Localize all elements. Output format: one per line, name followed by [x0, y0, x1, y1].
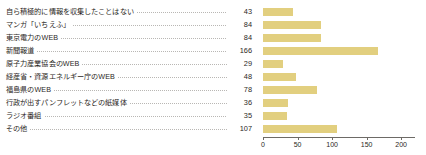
bar-cell	[263, 5, 426, 18]
table-row: 新聞報道 166	[0, 44, 426, 57]
chart-rows: 自ら積極的に情報を収集したことはない 43 マンガ「いちえふ」 84 東京電力の…	[0, 5, 426, 135]
x-axis-tick-label: 150	[361, 141, 373, 149]
leader-line	[118, 77, 227, 78]
leader-line	[37, 51, 227, 52]
bar	[263, 99, 288, 107]
category-label: 経産省・資源エネルギー庁のWEB	[0, 72, 115, 81]
leader-line	[137, 12, 227, 13]
value-label: 29	[230, 59, 252, 68]
leader-line	[61, 38, 227, 39]
bar-cell	[263, 18, 426, 31]
table-row: その他 107	[0, 122, 426, 135]
table-row: 原子力産業協会のWEB 29	[0, 57, 426, 70]
value-label: 107	[230, 124, 252, 133]
bar	[263, 8, 293, 16]
bar-cell	[263, 96, 426, 109]
bar-cell	[263, 70, 426, 83]
value-label: 84	[230, 20, 252, 29]
x-axis-tick-label: 100	[326, 141, 338, 149]
value-label: 78	[230, 85, 252, 94]
category-label: ラジオ番組	[0, 111, 42, 120]
x-axis-tick-label: 200	[395, 141, 407, 149]
leader-line	[130, 103, 227, 104]
horizontal-bar-chart: 自ら積極的に情報を収集したことはない 43 マンガ「いちえふ」 84 東京電力の…	[0, 0, 426, 155]
bar	[263, 21, 321, 29]
value-label: 84	[230, 33, 252, 42]
category-label: 東京電力のWEB	[0, 33, 58, 42]
leader-line	[30, 129, 227, 130]
value-label: 36	[230, 98, 252, 107]
bar-cell	[263, 83, 426, 96]
x-axis: 050100150200	[263, 137, 415, 155]
table-row: 自ら積極的に情報を収集したことはない 43	[0, 5, 426, 18]
table-row: 福島県のWEB 78	[0, 83, 426, 96]
bar	[263, 60, 283, 68]
category-label: その他	[0, 124, 27, 133]
value-label: 48	[230, 72, 252, 81]
table-row: 東京電力のWEB 84	[0, 31, 426, 44]
table-row: マンガ「いちえふ」 84	[0, 18, 426, 31]
x-axis-tick	[332, 137, 333, 140]
x-axis-tick	[401, 137, 402, 140]
leader-line	[54, 90, 227, 91]
x-axis-tick-label: 0	[261, 141, 265, 149]
bar-cell	[263, 44, 426, 57]
bar-cell	[263, 122, 426, 135]
table-row: 経産省・資源エネルギー庁のWEB 48	[0, 70, 426, 83]
x-axis-tick	[298, 137, 299, 140]
leader-line	[73, 25, 227, 26]
bar	[263, 47, 378, 55]
category-label: マンガ「いちえふ」	[0, 20, 70, 29]
table-row: 行政が出すパンフレットなどの紙媒体 36	[0, 96, 426, 109]
value-label: 43	[230, 7, 252, 16]
value-label: 35	[230, 111, 252, 120]
category-label: 福島県のWEB	[0, 85, 51, 94]
x-axis-line	[263, 137, 415, 138]
table-row: ラジオ番組 35	[0, 109, 426, 122]
x-axis-tick	[367, 137, 368, 140]
x-axis-tick-label: 50	[294, 141, 302, 149]
bar	[263, 125, 337, 133]
leader-line	[45, 116, 228, 117]
bar-cell	[263, 57, 426, 70]
bar-cell	[263, 109, 426, 122]
value-label: 166	[230, 46, 252, 55]
bar-cell	[263, 31, 426, 44]
bar	[263, 73, 296, 81]
category-label: 自ら積極的に情報を収集したことはない	[0, 7, 134, 16]
bar	[263, 34, 321, 42]
x-axis-tick	[263, 137, 264, 140]
category-label: 新聞報道	[0, 46, 34, 55]
leader-line	[82, 64, 227, 65]
category-label: 行政が出すパンフレットなどの紙媒体	[0, 98, 127, 107]
bar	[263, 86, 317, 94]
category-label: 原子力産業協会のWEB	[0, 59, 79, 68]
bar	[263, 112, 287, 120]
